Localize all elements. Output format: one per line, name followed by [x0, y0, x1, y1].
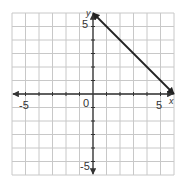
- axes: [13, 14, 173, 174]
- coordinate-plane: y x 0 -5 5 5 -5: [0, 0, 181, 185]
- y-tick-label-pos5: 5: [82, 18, 88, 30]
- origin-label: 0: [83, 97, 89, 109]
- y-axis-label: y: [85, 8, 91, 18]
- x-tick-label-neg5: -5: [19, 99, 29, 111]
- x-axis-label: x: [168, 96, 174, 106]
- y-tick-label-neg5: -5: [80, 160, 90, 172]
- x-tick-label-pos5: 5: [156, 99, 162, 111]
